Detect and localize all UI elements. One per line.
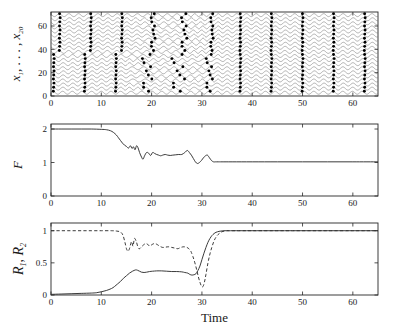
peak-marker	[363, 86, 366, 89]
peak-marker	[363, 90, 366, 93]
peak-marker	[89, 12, 92, 15]
peak-marker	[239, 86, 242, 89]
peak-marker	[89, 20, 92, 23]
peak-marker	[332, 65, 335, 68]
peak-marker	[149, 53, 152, 56]
oscillator-trace	[51, 55, 378, 58]
peak-marker	[52, 86, 55, 89]
peak-marker	[301, 90, 304, 93]
peak-marker	[333, 69, 336, 72]
top-xticklabel: 60	[348, 98, 358, 108]
oscillator-trace	[51, 30, 378, 33]
bot-yticklabel: 0	[43, 290, 48, 300]
peak-marker	[363, 24, 366, 27]
peak-marker	[83, 65, 86, 68]
bot-yticklabel: 0.5	[36, 258, 48, 268]
middle-ylabel: F	[10, 160, 25, 170]
peak-marker	[89, 45, 92, 48]
xaxis-label: Time	[201, 310, 228, 325]
peak-marker	[52, 53, 55, 56]
R1-curve	[51, 231, 378, 295]
peak-marker	[333, 57, 336, 60]
peak-marker	[239, 65, 242, 68]
peak-marker	[58, 45, 61, 48]
peak-marker	[239, 73, 242, 76]
peak-marker	[59, 41, 62, 44]
peak-marker	[239, 24, 242, 27]
peak-marker	[150, 78, 153, 81]
peak-marker	[90, 16, 93, 19]
peak-marker	[150, 45, 153, 48]
peak-marker	[301, 73, 304, 76]
peak-marker	[301, 29, 304, 32]
oscillator-trace	[51, 18, 378, 21]
top-yticklabel: 20	[38, 68, 48, 78]
peak-marker	[58, 20, 61, 23]
peak-marker	[332, 78, 335, 81]
peak-marker	[89, 24, 92, 27]
peak-marker	[301, 33, 304, 36]
peak-marker	[332, 61, 335, 64]
peak-marker	[205, 86, 208, 89]
peak-marker	[207, 69, 210, 72]
peak-marker	[301, 12, 304, 15]
bottom-ylabel: R1, R2	[11, 243, 28, 276]
peak-marker	[181, 65, 184, 68]
peak-marker	[53, 69, 56, 72]
peak-marker	[153, 24, 156, 27]
peak-marker	[120, 49, 123, 52]
peak-marker	[301, 37, 304, 40]
peak-marker	[84, 57, 87, 60]
oscillator-trace	[51, 34, 378, 37]
peak-marker	[150, 41, 153, 44]
bot-xticklabel: 40	[248, 297, 258, 307]
peak-marker	[178, 73, 181, 76]
peak-marker	[89, 49, 92, 52]
peak-marker	[332, 37, 335, 40]
peak-marker	[52, 73, 55, 76]
peak-marker	[209, 16, 212, 19]
peak-marker	[239, 37, 242, 40]
peak-marker	[239, 20, 242, 23]
bot-xticklabel: 20	[147, 297, 157, 307]
peak-marker	[363, 49, 366, 52]
mid-xticklabel: 10	[97, 198, 107, 208]
oscillator-trace	[51, 46, 378, 49]
peak-marker	[53, 57, 56, 60]
peak-marker	[59, 29, 62, 32]
peak-marker	[114, 53, 117, 56]
oscillator-trace	[51, 42, 378, 45]
bot-xticklabel: 50	[298, 297, 308, 307]
peak-marker	[58, 33, 61, 36]
peak-marker	[363, 20, 366, 23]
bottom-ylabel-text: R1, R2	[11, 243, 28, 276]
mid-yticklabel: 0	[43, 191, 48, 201]
oscillator-trace	[51, 75, 378, 78]
peak-marker	[301, 69, 304, 72]
peak-marker	[239, 61, 242, 64]
oscillator-trace	[51, 26, 378, 29]
oscillator-trace	[51, 50, 378, 53]
top-xticklabel: 50	[298, 98, 308, 108]
peak-marker	[239, 12, 242, 15]
peak-marker	[183, 49, 186, 52]
peak-marker	[153, 12, 156, 15]
peak-marker	[363, 45, 366, 48]
peak-marker	[59, 16, 62, 19]
peak-marker	[363, 12, 366, 15]
peak-marker	[83, 73, 86, 76]
peak-marker	[364, 29, 367, 32]
top-yticklabel: 40	[38, 45, 48, 55]
peak-marker	[301, 86, 304, 89]
peak-marker	[210, 53, 213, 56]
peak-marker	[301, 82, 304, 85]
peak-marker	[147, 90, 150, 93]
peak-marker	[52, 78, 55, 81]
peak-marker	[301, 49, 304, 52]
peak-marker	[301, 61, 304, 64]
mid-xticklabel: 50	[298, 198, 308, 208]
peak-marker	[211, 33, 214, 36]
middle-panel-frame	[51, 124, 378, 196]
peak-marker	[170, 57, 173, 60]
oscillator-trace	[51, 79, 378, 82]
